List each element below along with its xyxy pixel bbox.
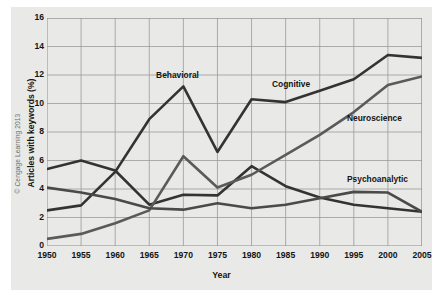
series-label-psychoanalytic: Psychoanalytic: [347, 174, 408, 184]
figure-container: © Cengage Learning 2013 Articles with ke…: [0, 0, 443, 297]
series-line-neuroscience: [47, 76, 422, 238]
series-line-behavioral: [47, 161, 422, 212]
data-lines: [47, 55, 422, 239]
y-tick-label: 14: [22, 42, 44, 51]
plot-area: [47, 18, 422, 246]
line-chart-svg: [47, 18, 422, 246]
series-label-cognitive: Cognitive: [272, 79, 310, 89]
x-axis-ticks: 1950195519601965197019751980198519901995…: [47, 250, 422, 264]
gridlines: [47, 18, 422, 246]
y-tick-label: 6: [22, 156, 44, 165]
x-axis-label: Year: [0, 270, 443, 280]
y-tick-label: 16: [22, 13, 44, 22]
x-tick-label: 2005: [402, 250, 442, 260]
y-tick-label: 10: [22, 99, 44, 108]
y-tick-label: 12: [22, 70, 44, 79]
series-label-behavioral: Behavioral: [156, 70, 199, 80]
series-label-neuroscience: Neuroscience: [347, 113, 402, 123]
y-tick-label: 2: [22, 213, 44, 222]
y-tick-label: 8: [22, 127, 44, 136]
series-line-cognitive: [47, 55, 422, 210]
y-axis-ticks: 0246810121416: [20, 18, 44, 246]
y-tick-label: 4: [22, 184, 44, 193]
y-tick-label: 0: [22, 241, 44, 250]
series-line-psychoanalytic: [47, 188, 422, 212]
